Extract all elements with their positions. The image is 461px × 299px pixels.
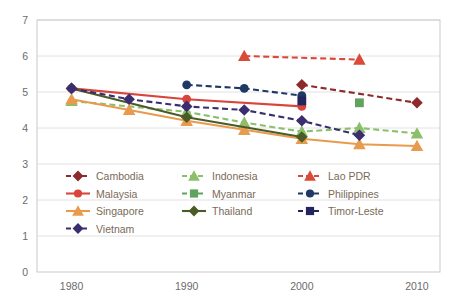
legend-item-vietnam[interactable]: Vietnam [66,223,135,235]
y-axis-tick-label: 3 [22,158,28,170]
legend-label: Malaysia [96,188,138,200]
data-point-diamond [181,101,193,113]
legend-item-thailand[interactable]: Thailand [182,205,252,217]
data-point-diamond [411,97,423,109]
data-point-square [306,207,314,215]
x-axis-tick-label: 1990 [175,280,199,292]
legend-item-myanmar[interactable]: Myanmar [182,188,256,200]
series-myanmar [355,98,364,107]
data-point-diamond [73,171,84,182]
data-point-square [355,98,364,107]
legend-label: Singapore [96,205,144,217]
data-point-diamond [238,104,250,116]
line-chart: 012345671980199020002010CambodiaIndonesi… [0,0,461,299]
legend-label: Vietnam [96,223,135,235]
data-point-circle [74,189,82,197]
legend-item-lao-pdr[interactable]: Lao PDR [298,170,371,182]
data-point-triangle [65,93,77,104]
legend-label: Indonesia [212,170,258,182]
y-axis-tick-label: 2 [22,194,28,206]
data-point-diamond [296,115,308,127]
series-lao-pdr [238,50,366,65]
legend-item-philippines[interactable]: Philippines [298,188,379,200]
data-point-diamond [189,206,200,217]
legend-label: Philippines [328,188,379,200]
series-timor-leste [297,97,306,106]
legend-item-malaysia[interactable]: Malaysia [66,188,138,200]
legend-item-timor-leste[interactable]: Timor-Leste [298,205,384,217]
data-point-diamond [73,223,84,234]
data-point-circle [306,189,314,197]
legend-label: Thailand [212,205,252,217]
data-point-circle [182,80,191,89]
y-axis-tick-label: 5 [22,86,28,98]
x-axis-tick-label: 2000 [290,280,314,292]
data-point-diamond [296,79,308,91]
data-point-square [190,189,198,197]
legend-label: Lao PDR [328,170,371,182]
y-axis-tick-label: 6 [22,50,28,62]
legend-label: Timor-Leste [328,205,384,217]
y-axis-tick-label: 4 [22,122,28,134]
series-philippines [182,80,306,100]
legend-label: Cambodia [96,170,144,182]
data-point-triangle [353,53,365,64]
legend-label: Myanmar [212,188,256,200]
series-line [244,56,359,60]
chart-container: 012345671980199020002010CambodiaIndonesi… [0,0,461,299]
x-axis-tick-label: 2010 [405,280,429,292]
legend-item-singapore[interactable]: Singapore [66,205,144,217]
data-point-square [297,97,306,106]
legend-item-cambodia[interactable]: Cambodia [66,170,144,182]
y-axis-tick-label: 0 [22,266,28,278]
data-point-circle [240,84,249,93]
x-axis-tick-label: 1980 [60,280,84,292]
legend-item-indonesia[interactable]: Indonesia [182,170,258,182]
y-axis-tick-label: 7 [22,14,28,26]
y-axis-tick-label: 1 [22,230,28,242]
